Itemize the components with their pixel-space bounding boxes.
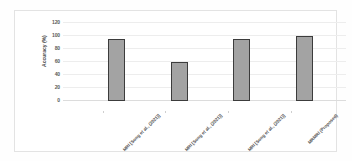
x-tick-mark xyxy=(228,111,229,113)
chart-frame: Accuracy (%) 020406080100120 MRI [Song e… xyxy=(14,10,337,152)
x-tick-mark xyxy=(103,111,104,113)
x-axis-label: MRI [Song et al., (2021)] xyxy=(246,113,285,152)
x-axis-label: MRI [Song et al., (2021)] xyxy=(121,113,160,152)
bar xyxy=(108,39,125,101)
x-axis-label: MRMRI (Proposed) xyxy=(306,113,338,145)
bar xyxy=(296,36,313,101)
bar xyxy=(233,39,250,101)
y-tick-label: 120 xyxy=(52,19,60,25)
y-axis-title: Accuracy (%) xyxy=(41,35,47,67)
plot-area: 020406080100120 xyxy=(63,23,346,101)
y-tick-label: 0 xyxy=(57,97,60,103)
y-tick-label: 60 xyxy=(55,58,60,64)
figure-canvas: Accuracy (%) 020406080100120 MRI [Song e… xyxy=(0,0,352,161)
x-axis-label: MRI [Song et al., (2021)] xyxy=(184,113,223,152)
x-tick-mark xyxy=(165,111,166,113)
x-tick-mark xyxy=(291,111,292,113)
y-tick-label: 100 xyxy=(52,32,60,38)
y-tick-label: 80 xyxy=(55,45,60,51)
gridline: 120 xyxy=(63,22,346,23)
bar xyxy=(171,62,188,101)
y-tick-label: 20 xyxy=(55,84,60,90)
y-tick-label: 40 xyxy=(55,71,60,77)
